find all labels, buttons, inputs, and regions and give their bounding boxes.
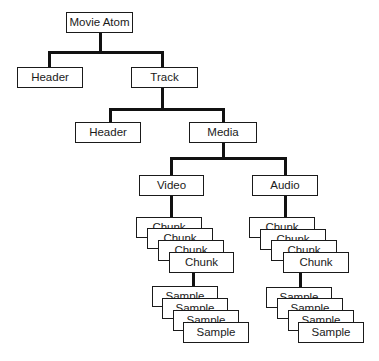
connector-audio-up — [284, 157, 287, 175]
connector-movie-atom-branch — [48, 51, 164, 54]
node-audio-sample: Sample — [298, 322, 364, 343]
node-video: Video — [139, 175, 204, 196]
node-movie-atom: Movie Atom — [66, 12, 133, 33]
node-video-chunk: Chunk — [169, 252, 234, 273]
node-media: Media — [189, 122, 257, 143]
node-video-sample: Sample — [183, 322, 249, 343]
connector-video-chunks-to-samples — [192, 273, 195, 286]
node-audio-chunk: Chunk — [283, 252, 349, 273]
connector-track-branch — [109, 108, 225, 111]
connector-track-down — [161, 88, 164, 110]
node-track-header: Header — [75, 122, 141, 143]
connector-media-branch — [170, 157, 286, 160]
node-audio: Audio — [252, 175, 318, 196]
node-track: Track — [131, 67, 198, 88]
connector-media-up — [222, 108, 225, 122]
connector-video-up — [170, 157, 173, 175]
node-movie-header: Header — [17, 67, 83, 88]
connector-audio-chunks-to-samples — [299, 273, 302, 287]
connector-track-header-up — [109, 108, 112, 122]
connector-movie-header-up — [48, 51, 51, 67]
connector-track-up — [161, 51, 164, 67]
connector-audio-to-chunks — [284, 196, 287, 217]
movie-atom-tree-diagram: Movie Atom Header Track Header Media Vid… — [0, 0, 379, 361]
connector-video-to-chunks — [170, 196, 173, 217]
